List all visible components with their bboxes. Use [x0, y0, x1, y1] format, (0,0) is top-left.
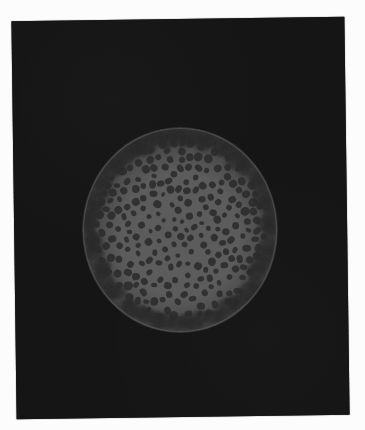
specimen-texture	[82, 127, 278, 333]
circular-specimen	[82, 127, 278, 333]
image-frame	[0, 0, 365, 430]
